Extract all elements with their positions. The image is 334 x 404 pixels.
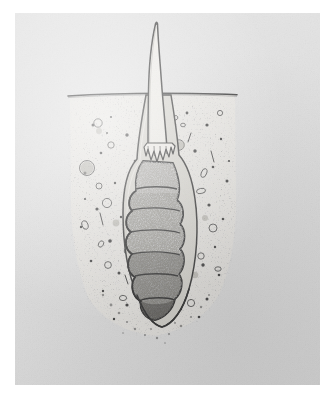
paper-sheet [15, 13, 320, 385]
follicle-lobes [115, 153, 197, 336]
hair-follicle-illustration [15, 13, 320, 385]
figure-root: Hair follicle in cross-section pen-and-i… [0, 0, 334, 404]
hair-shaft [148, 22, 167, 149]
